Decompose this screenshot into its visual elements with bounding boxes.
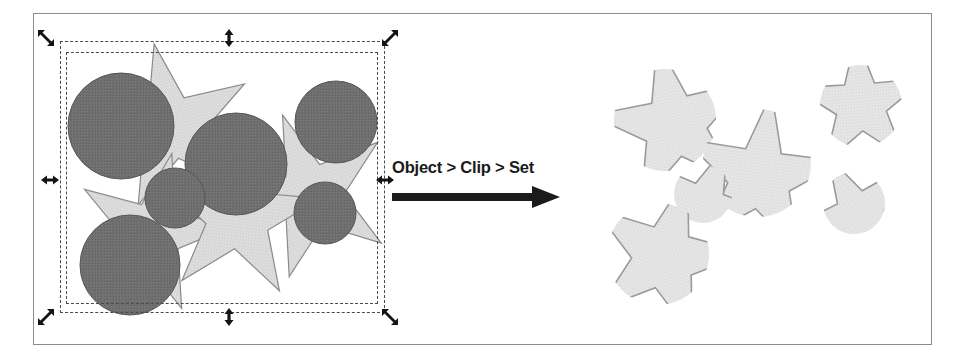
transition-group: Object > Clip > Set	[392, 158, 562, 214]
circle-large-bottomleft	[80, 215, 180, 315]
right-arrow-icon	[392, 184, 562, 210]
clipped-fragment-group	[568, 25, 940, 345]
clipped-artwork-svg	[555, 0, 969, 358]
after-stage	[555, 0, 969, 358]
transition-label: Object > Clip > Set	[392, 158, 534, 177]
circle-small-midright	[294, 182, 356, 244]
clipped-shape-topright	[790, 32, 930, 166]
circle-large-topleft	[68, 73, 174, 179]
circle-small-midleft	[145, 168, 205, 228]
circle-medium-topright	[295, 81, 377, 163]
clipped-shape-smallright	[773, 127, 941, 292]
illustration-page: Object > Clip > Set	[0, 0, 969, 358]
